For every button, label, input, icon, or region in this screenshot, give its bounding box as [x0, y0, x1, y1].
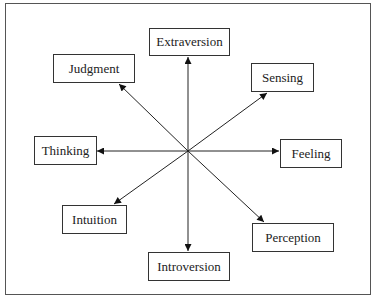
node-introversion: Introversion — [148, 252, 230, 281]
node-thinking: Thinking — [34, 136, 97, 165]
node-sensing: Sensing — [251, 63, 314, 92]
node-perception: Perception — [252, 223, 334, 252]
node-label: Feeling — [292, 146, 331, 162]
node-label: Perception — [265, 230, 321, 246]
node-label: Thinking — [42, 143, 90, 159]
node-judgment: Judgment — [53, 54, 135, 83]
node-label: Judgment — [69, 61, 120, 77]
node-label: Intuition — [72, 212, 117, 228]
arrow-to-judgment — [119, 84, 188, 151]
node-label: Sensing — [262, 70, 303, 86]
arrow-to-perception — [188, 151, 264, 222]
node-label: Introversion — [157, 259, 221, 275]
arrow-to-intuition — [114, 151, 188, 204]
node-feeling: Feeling — [280, 139, 342, 168]
node-extraversion: Extraversion — [149, 28, 230, 56]
arrow-to-sensing — [188, 93, 267, 151]
node-label: Extraversion — [156, 34, 222, 50]
node-intuition: Intuition — [62, 205, 127, 234]
